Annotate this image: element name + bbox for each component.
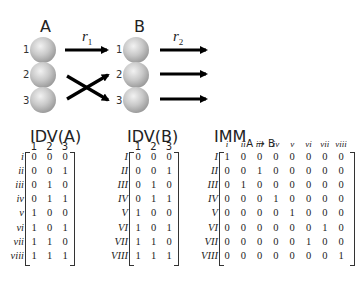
matrix-cell: 0 [236, 236, 250, 247]
node-b1-icon [123, 37, 149, 63]
matrix-cell: 0 [318, 207, 332, 218]
matrix-cell: 0 [285, 250, 299, 261]
matrix-cell: 0 [285, 179, 299, 190]
left-bracket [129, 152, 134, 266]
row-label: VI [98, 222, 128, 233]
row-label: ii [0, 165, 24, 176]
left-bracket [25, 152, 30, 266]
matrix-cell: 0 [147, 165, 161, 176]
row-label: iii [0, 179, 24, 190]
rate-2-label: r2 [173, 28, 183, 47]
right-bracket [174, 152, 179, 266]
row-label: vii [0, 236, 24, 247]
row-label: V [98, 207, 128, 218]
matrix-cell: 0 [43, 222, 57, 233]
row-label: I [98, 151, 128, 162]
matrix-cell: 0 [147, 207, 161, 218]
matrix-cell: 0 [334, 222, 348, 233]
matrix-cell: 0 [147, 222, 161, 233]
matrix-cell: 0 [318, 179, 332, 190]
matrix-cell: 1 [285, 207, 299, 218]
row-label: VI [188, 222, 218, 233]
matrix-cell: 1 [269, 193, 283, 204]
matrix-cell: 0 [147, 151, 161, 162]
matrix-cell: 0 [318, 250, 332, 261]
row-label: VII [98, 236, 128, 247]
rate-2-subscript: 2 [179, 37, 184, 47]
node-a3-icon [30, 87, 56, 113]
matrix-cell: 0 [302, 165, 316, 176]
matrix-cell: 1 [147, 179, 161, 190]
matrix-cell: 0 [285, 165, 299, 176]
matrix-cell: 0 [302, 207, 316, 218]
matrix-cell: 1 [302, 236, 316, 247]
matrix-cell: 0 [269, 179, 283, 190]
matrix-cell: 1 [147, 236, 161, 247]
matrix-cell: 0 [43, 207, 57, 218]
matrix-cell: 1 [43, 250, 57, 261]
node-a2-label: 2 [23, 69, 29, 80]
matrix-cell: 0 [302, 250, 316, 261]
matrix-cell: 0 [302, 179, 316, 190]
row-label: v [0, 207, 24, 218]
row-label: VII [188, 236, 218, 247]
row-label: vi [0, 222, 24, 233]
node-b3-icon [123, 87, 149, 113]
matrix-cell: 1 [43, 179, 57, 190]
matrix-cell: 0 [334, 151, 348, 162]
left-bracket [219, 152, 224, 266]
layer-b-label: B [134, 17, 145, 36]
matrix-cell: 1 [147, 250, 161, 261]
rate-1-subscript: 1 [88, 37, 93, 47]
node-b2-label: 2 [116, 69, 122, 80]
row-label: II [188, 165, 218, 176]
matrix-cell: 0 [334, 179, 348, 190]
rate-1-label: r1 [82, 28, 92, 47]
node-b2-icon [123, 62, 149, 88]
node-a2-icon [30, 62, 56, 88]
matrix-cell: 0 [236, 250, 250, 261]
matrix-cell: 0 [253, 179, 267, 190]
node-b3-label: 3 [116, 95, 122, 106]
matrix-cell: 0 [302, 222, 316, 233]
matrix-cell: 0 [318, 151, 332, 162]
matrix-cell: 0 [302, 151, 316, 162]
matrix-cell: 0 [269, 222, 283, 233]
node-b1-label: 1 [116, 44, 122, 55]
row-label: VIII [98, 250, 128, 261]
connections-a-to-b [65, 50, 108, 100]
row-label: II [98, 165, 128, 176]
matrix-cell: 0 [253, 236, 267, 247]
column-header: viii [331, 139, 351, 149]
matrix-cell: 0 [236, 151, 250, 162]
layer-a-nodes [30, 37, 56, 113]
row-label: III [188, 179, 218, 190]
matrix-cell: 0 [236, 207, 250, 218]
network-diagram [0, 0, 359, 125]
matrix-cell: 1 [43, 236, 57, 247]
matrix-cell: 0 [43, 151, 57, 162]
matrix-cell: 0 [334, 165, 348, 176]
matrix-cell: 0 [269, 250, 283, 261]
matrix-cell: 1 [334, 250, 348, 261]
matrix-cell: 0 [318, 193, 332, 204]
matrix-cell: 0 [269, 236, 283, 247]
row-label: III [98, 179, 128, 190]
right-bracket [350, 152, 355, 266]
row-label: V [188, 207, 218, 218]
matrix-cell: 0 [334, 193, 348, 204]
matrix-cell: 0 [285, 236, 299, 247]
matrix-cell: 0 [302, 193, 316, 204]
matrix-cell: 0 [285, 193, 299, 204]
matrix-cell: 0 [236, 193, 250, 204]
right-bracket [70, 152, 75, 266]
matrix-cell: 1 [147, 193, 161, 204]
row-label: IV [98, 193, 128, 204]
row-label: I [188, 151, 218, 162]
row-label: viii [0, 250, 24, 261]
node-a1-icon [30, 37, 56, 63]
matrix-cell: 1 [253, 165, 267, 176]
matrix-cell: 0 [236, 222, 250, 233]
matrix-cell: 1 [318, 222, 332, 233]
layer-a-label: A [40, 17, 51, 36]
